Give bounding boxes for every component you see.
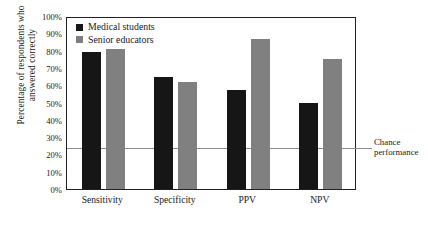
bar-ppv-medical-students xyxy=(227,90,246,189)
bar-specificity-senior-educators xyxy=(178,82,197,189)
y-axis-tick-10%: 10% xyxy=(28,168,62,177)
x-axis-tick-specificity: Specificity xyxy=(154,194,196,205)
chance-performance-label-line1: Chance xyxy=(374,137,428,147)
x-axis-tick-sensitivity: Sensitivity xyxy=(82,194,123,205)
legend: Medical students Senior educators xyxy=(76,21,155,46)
y-axis-tick-90%: 90% xyxy=(28,30,62,39)
y-axis-tick-100%: 100% xyxy=(28,13,62,22)
y-axis-tick-20%: 20% xyxy=(28,151,62,160)
chance-performance-label-line2: performance xyxy=(374,147,428,157)
bar-npv-senior-educators xyxy=(323,59,342,189)
bar-chart-figure: Percentage of respondents who answered c… xyxy=(0,0,428,228)
y-axis-tick-40%: 40% xyxy=(28,117,62,126)
bar-sensitivity-medical-students xyxy=(82,52,101,189)
y-axis-tick-60%: 60% xyxy=(28,82,62,91)
x-axis-tick-npv: NPV xyxy=(310,194,329,205)
legend-label-senior-educators: Senior educators xyxy=(88,34,154,47)
x-axis-tick-ppv: PPV xyxy=(238,194,256,205)
y-axis-tick-50%: 50% xyxy=(28,99,62,108)
y-axis-tick-80%: 80% xyxy=(28,47,62,56)
legend-swatch-senior-educators xyxy=(76,36,83,43)
bar-specificity-medical-students xyxy=(154,77,173,189)
y-axis-tick-labels: 0%10%20%30%40%50%60%70%80%90%100% xyxy=(28,17,62,190)
bar-sensitivity-senior-educators xyxy=(106,49,125,189)
legend-item-medical-students: Medical students xyxy=(76,21,155,34)
y-axis-tick-70%: 70% xyxy=(28,65,62,74)
bar-npv-medical-students xyxy=(299,103,318,190)
legend-label-medical-students: Medical students xyxy=(88,21,155,34)
legend-item-senior-educators: Senior educators xyxy=(76,34,155,47)
y-axis-tick-30%: 30% xyxy=(28,134,62,143)
y-axis-tick-0%: 0% xyxy=(28,186,62,195)
legend-swatch-medical-students xyxy=(76,24,83,31)
y-axis-title-line1: Percentage of respondents who xyxy=(16,6,26,125)
bar-ppv-senior-educators xyxy=(251,39,270,190)
chance-performance-label: Chance performance xyxy=(374,137,428,157)
